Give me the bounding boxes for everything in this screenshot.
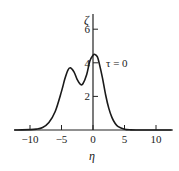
- x-tick-label: 5: [122, 133, 128, 145]
- x-tick-label: 0: [90, 133, 96, 145]
- x-tick-label: 10: [151, 133, 163, 145]
- x-axis-label: η: [89, 149, 95, 163]
- x-tick-label: −5: [56, 133, 68, 145]
- tau-annotation: τ = 0: [106, 57, 128, 69]
- y-ticks: 246: [85, 23, 99, 102]
- x-tick-label: −10: [21, 133, 39, 145]
- y-tick-label: 2: [85, 90, 91, 102]
- axes: [14, 14, 173, 130]
- chart: −10−50510 246 ζ η τ = 0: [0, 0, 179, 171]
